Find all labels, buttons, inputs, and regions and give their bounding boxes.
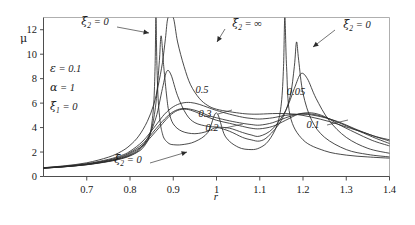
y-tick-label: 8 bbox=[32, 73, 37, 84]
leader-xi2-zero-top-left bbox=[117, 27, 149, 34]
chart-labels: 0246810120.70.80.911.11.21.31.4μrε = 0.1… bbox=[20, 15, 397, 202]
y-tick-label: 2 bbox=[32, 147, 37, 158]
y-tick-label: 6 bbox=[32, 98, 37, 109]
x-tick-label: 0.7 bbox=[80, 184, 93, 195]
y-axis-title: μ bbox=[20, 32, 27, 45]
leader-xi2-zero-bottom bbox=[150, 151, 187, 163]
plot-axes bbox=[44, 18, 390, 177]
curve-label-2: 0.2 bbox=[205, 122, 219, 133]
annotation-xi2-zero-top-left: ξ2 = 0 bbox=[81, 15, 109, 30]
curve-0_5 bbox=[44, 102, 390, 167]
x-tick-label: 1.3 bbox=[340, 184, 353, 195]
data-curves bbox=[44, 15, 390, 169]
annotation-xi2-infinity: ξ2 = ∞ bbox=[232, 17, 262, 32]
curve-0_05 bbox=[44, 36, 390, 168]
x-tick-label: 1.1 bbox=[253, 184, 266, 195]
plot-border bbox=[44, 18, 390, 177]
y-tick-label: 0 bbox=[32, 171, 37, 182]
frequency-response-chart: 0246810120.70.80.911.11.21.31.4μrε = 0.1… bbox=[0, 0, 415, 225]
x-tick-label: 1.2 bbox=[296, 184, 309, 195]
curve-∞ bbox=[44, 15, 390, 168]
leader-xi2-zero-top-right bbox=[313, 30, 335, 47]
x-axis-title: r bbox=[214, 190, 219, 202]
curve-label-4: 0.1 bbox=[306, 119, 319, 130]
y-tick-label: 10 bbox=[27, 49, 38, 60]
annotation-xi2-zero-top-right: ξ2 = 0 bbox=[343, 18, 371, 33]
curve-label-1: 0.3 bbox=[198, 108, 211, 119]
curve-label-3: 0.05 bbox=[287, 86, 305, 97]
curve-0_3 bbox=[44, 108, 390, 167]
axis-ticks bbox=[40, 30, 390, 181]
param-epsilon: ε = 0.1 bbox=[50, 62, 81, 75]
x-tick-label: 1.4 bbox=[383, 184, 397, 195]
curve-label-0: 0.5 bbox=[195, 84, 208, 95]
param-xi1: ξ1 = 0 bbox=[50, 100, 78, 115]
x-tick-label: 0.9 bbox=[167, 184, 180, 195]
x-tick-label: 0.8 bbox=[123, 184, 136, 195]
plot-frame bbox=[44, 18, 390, 177]
y-tick-label: 12 bbox=[27, 24, 38, 35]
y-tick-label: 4 bbox=[32, 122, 38, 133]
param-alpha: α = 1 bbox=[50, 81, 75, 94]
chart-svg: 0246810120.70.80.911.11.21.31.4μrε = 0.1… bbox=[0, 0, 415, 225]
leader-xi2-infinity bbox=[217, 29, 225, 42]
annotation-xi2-zero-bottom: ξ2 = 0 bbox=[114, 153, 142, 168]
